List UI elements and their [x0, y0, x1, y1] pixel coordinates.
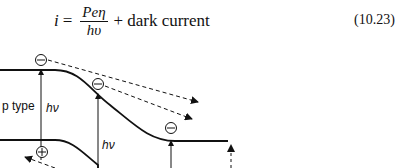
band-diagram [0, 0, 397, 168]
electron-3 [166, 123, 177, 134]
electron-2 [93, 79, 104, 90]
electron-1 [36, 55, 47, 66]
hole-drift-arrow [25, 157, 55, 168]
photon-label-1: hν [46, 101, 59, 115]
valence-band [0, 140, 98, 168]
electron-drift-arrow-1 [48, 60, 198, 102]
p-type-label: p type [2, 99, 35, 113]
photon-label-2: hν [102, 138, 115, 152]
electron-drift-arrow-2 [105, 86, 192, 119]
hole-1 [37, 147, 48, 158]
